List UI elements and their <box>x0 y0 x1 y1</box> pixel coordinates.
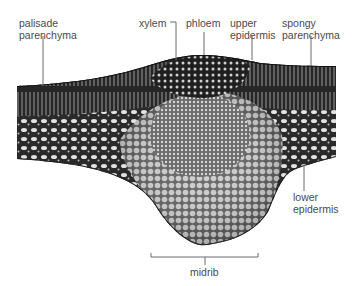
leaf-cross-section-figure <box>0 0 355 286</box>
label-xylem: xylem <box>139 17 166 29</box>
leaf-tissue <box>0 40 355 260</box>
label-palisade-parenchyma: palisade parenchyma <box>19 17 77 41</box>
label-midrib: midrib <box>190 266 219 278</box>
label-spongy-parenchyma: spongy parenchyma <box>282 17 340 41</box>
xylem-leader-line <box>170 22 176 60</box>
midrib-bracket <box>151 253 258 257</box>
phloem-tissue <box>150 93 250 177</box>
label-lower-epidermis: lower epidermis <box>293 191 339 215</box>
label-upper-epidermis: upper epidermis <box>230 17 276 41</box>
label-phloem: phloem <box>186 17 220 29</box>
